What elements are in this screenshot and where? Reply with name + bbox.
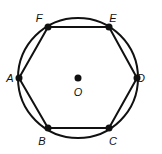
vertex-point-B — [45, 125, 52, 132]
vertex-label-A: A — [5, 72, 13, 84]
vertex-label-B: B — [38, 135, 45, 147]
center-point-O — [75, 75, 82, 82]
vertex-label-C: C — [109, 135, 117, 147]
vertex-point-E — [106, 24, 113, 31]
center-label-O: O — [74, 86, 83, 98]
vertex-point-F — [45, 24, 52, 31]
hexagon-in-circle-diagram: O ABCDEF — [0, 0, 162, 154]
vertex-point-C — [106, 125, 113, 132]
vertex-label-D: D — [137, 72, 145, 84]
vertex-label-E: E — [109, 12, 117, 24]
vertex-label-F: F — [36, 12, 44, 24]
vertex-point-A — [16, 75, 23, 82]
